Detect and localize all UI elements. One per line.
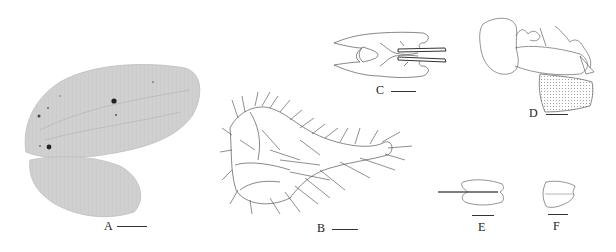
panel-label-b: B (317, 222, 325, 234)
panel-label-e: E (478, 221, 485, 233)
hindwing (30, 157, 141, 217)
panel-a-wings (25, 65, 200, 217)
scale-bar-b (332, 229, 358, 230)
panel-e-structure (438, 180, 503, 205)
scale-bar-e (472, 215, 494, 216)
figure-canvas (0, 0, 616, 252)
panel-label-a: A (104, 220, 113, 232)
scale-bar-c (391, 91, 416, 92)
panel-c-structure (334, 32, 446, 77)
panel-label-d: D (529, 107, 538, 119)
panel-label-c: C (376, 84, 384, 96)
panel-b-appendage (220, 92, 412, 214)
scale-bar-f (548, 214, 568, 215)
forewing (25, 65, 200, 158)
panel-f-structure (543, 181, 575, 207)
scale-bar-a (117, 226, 147, 227)
scale-bar-d (546, 114, 568, 115)
panel-label-f: F (553, 220, 560, 232)
panel-d-structure (480, 18, 594, 112)
